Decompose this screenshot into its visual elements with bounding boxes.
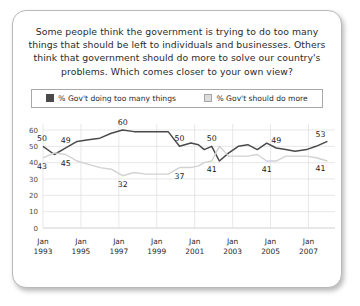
x-tick-month: Jan (36, 237, 49, 246)
x-tick-month: Jan (188, 237, 201, 246)
x-tick-year: 1993 (34, 247, 53, 256)
chart-legend: % Gov't doing too many things % Gov't sh… (31, 89, 323, 108)
data-point-label: 49 (61, 136, 71, 145)
data-point-label: 41 (315, 164, 325, 173)
x-tick-month: Jan (264, 237, 277, 246)
data-point-label: 50 (207, 134, 217, 143)
data-point-label: 32 (118, 180, 128, 189)
x-tick-month: Jan (226, 237, 239, 246)
data-point-label: 41 (207, 165, 217, 174)
x-tick-month: Jan (74, 237, 87, 246)
x-tick-month: Jan (302, 237, 315, 246)
data-point-label: 43 (37, 162, 47, 171)
legend-swatch-dark-icon (46, 94, 54, 102)
x-tick-year: 1999 (147, 247, 166, 256)
data-point-label: 45 (61, 158, 71, 167)
y-tick-label: 50 (29, 143, 38, 151)
data-point-label: 60 (118, 118, 128, 127)
chart-plot-area: 0102030405060 Jan1993Jan1995Jan1997Jan19… (13, 116, 341, 268)
series-layer (43, 130, 327, 176)
x-tick-year: 2001 (185, 247, 204, 256)
legend-label-gov-do-more: % Gov't should do more (216, 94, 307, 103)
x-tick-month: Jan (112, 237, 125, 246)
x-tick-year: 2005 (261, 247, 280, 256)
y-tick-label: 0 (34, 224, 38, 232)
data-point-label: 50 (37, 134, 47, 143)
legend-item-gov-too-many: % Gov't doing too many things (46, 94, 176, 103)
line-chart-svg: 0102030405060 Jan1993Jan1995Jan1997Jan19… (13, 116, 341, 268)
data-point-label: 49 (271, 136, 281, 145)
data-point-label: 41 (262, 165, 272, 174)
question-text: Some people think the government is tryi… (27, 25, 327, 78)
legend-swatch-light-icon (204, 94, 212, 102)
y-tick-label: 30 (29, 175, 38, 183)
x-tick-month: Jan (150, 237, 163, 246)
data-point-label: 37 (175, 171, 185, 180)
y-tick-label: 10 (29, 208, 38, 216)
legend-label-gov-too-many: % Gov't doing too many things (58, 94, 176, 103)
chart-card: Some people think the government is tryi… (12, 10, 342, 288)
x-tick-year: 2007 (299, 247, 318, 256)
data-point-label: 50 (175, 134, 185, 143)
series-line (43, 146, 327, 175)
data-point-label: 53 (315, 130, 325, 139)
x-tick-year: 2003 (223, 247, 242, 256)
x-axis-labels: Jan1993Jan1995Jan1997Jan1999Jan2001Jan20… (34, 237, 319, 256)
legend-item-gov-do-more: % Gov't should do more (204, 94, 307, 103)
data-point-labels: 5049605050495343453237414141 (37, 118, 325, 189)
x-tick-year: 1995 (72, 247, 91, 256)
y-tick-label: 20 (29, 192, 38, 200)
x-tick-year: 1997 (109, 247, 128, 256)
